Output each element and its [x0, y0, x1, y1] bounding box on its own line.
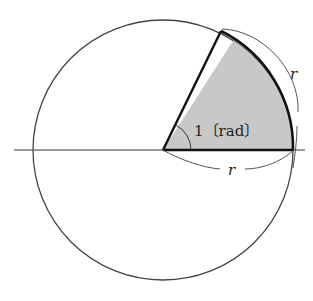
radius-bracket-left: [163, 150, 220, 169]
radius-bracket-right: [245, 151, 293, 169]
angle-label: 1〔rad〕: [194, 122, 259, 140]
arc-length-label: r: [290, 65, 298, 83]
radius-label: r: [228, 161, 236, 179]
radian-diagram: 1〔rad〕 r r: [0, 0, 313, 301]
